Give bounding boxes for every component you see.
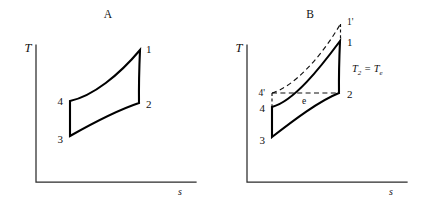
- panel-b-ts-diagram: B T s 1' 1 2 3 4 4' e T2 = Te: [211, 0, 422, 204]
- panel-a-cycle-path: [70, 50, 140, 136]
- panel-a-y-axis-label: T: [25, 41, 33, 55]
- panel-a-point-label-1: 1: [146, 43, 152, 55]
- panel-b-point-label-4-prime: 4': [259, 88, 266, 98]
- annotation-subscript-right: e: [380, 69, 383, 77]
- panel-a-point-label-2: 2: [146, 98, 152, 110]
- panel-a-point-label-4: 4: [58, 95, 64, 107]
- panel-b-title: B: [306, 8, 314, 20]
- panel-a-ts-diagram: A T s 1 2 3 4: [0, 0, 211, 204]
- panel-a-point-label-3: 3: [58, 133, 64, 145]
- panel-b-point-label-1: 1: [347, 36, 353, 48]
- panel-b-point-label-4: 4: [260, 102, 266, 114]
- panel-b-point-label-2: 2: [347, 88, 353, 100]
- panel-a-title: A: [104, 8, 113, 20]
- panel-b-y-axis-label: T: [236, 41, 244, 55]
- panel-b-point-label-e: e: [302, 96, 306, 106]
- panel-a-x-axis-label: s: [178, 186, 182, 197]
- annotation-equals: =: [361, 63, 373, 74]
- panel-a-axes: [36, 45, 196, 182]
- panel-b-point-label-3: 3: [260, 134, 266, 146]
- figure-root: A T s 1 2 3 4 B T s 1' 1 2 3 4 4' e T: [0, 0, 422, 204]
- panel-b-x-axis-label: s: [389, 186, 393, 197]
- panel-b-point-label-1-prime: 1': [347, 17, 354, 27]
- panel-b-temperature-annotation: T2 = Te: [352, 63, 383, 77]
